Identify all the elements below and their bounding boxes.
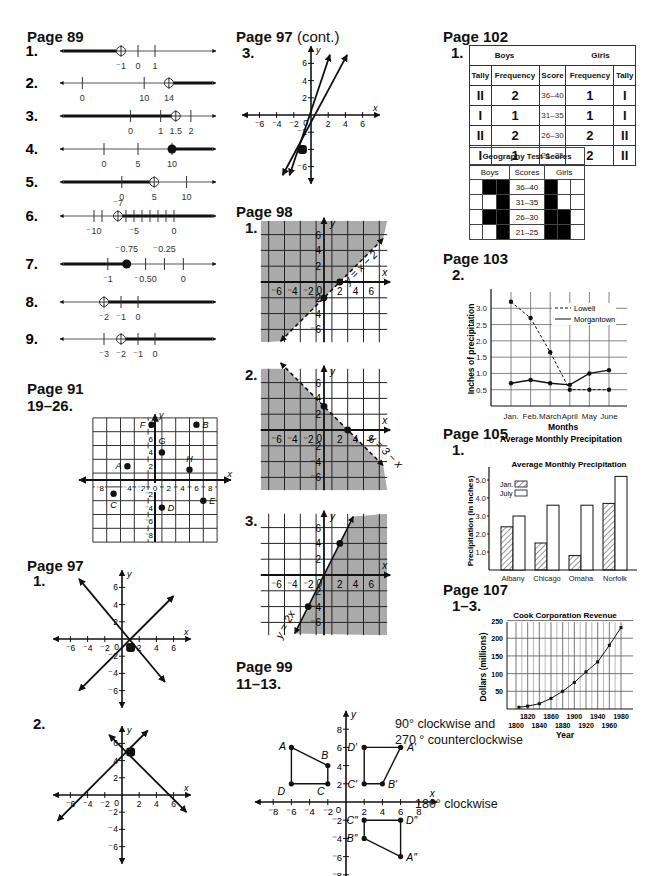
svg-text:C″: C″ [347, 814, 360, 826]
precipitation-line-chart: Jan.Feb.MarchAprilMayJune0.51.01.52.02.5… [440, 262, 666, 432]
svg-text:10: 10 [139, 93, 149, 103]
svg-text:2: 2 [149, 462, 154, 471]
svg-text:6: 6 [315, 378, 321, 389]
svg-text:1940: 1940 [590, 713, 606, 720]
svg-text:6: 6 [360, 119, 365, 129]
boys-header: Boys [470, 46, 540, 66]
svg-text:y: y [329, 366, 336, 377]
svg-text:⁻0.75: ⁻0.75 [115, 244, 138, 254]
tally-cell: I [470, 106, 492, 126]
svg-text:⁻4: ⁻4 [287, 286, 298, 297]
svg-text:⁻8: ⁻8 [96, 484, 105, 493]
svg-text:y: y [158, 410, 164, 420]
svg-text:⁻6: ⁻6 [66, 643, 76, 653]
precipitation-bar-chart: Average Monthly Precipitation1.02.03.04.… [440, 440, 666, 590]
geo-row: 26–30 [470, 210, 585, 225]
svg-text:6: 6 [302, 58, 307, 68]
svg-text:⁻0.50: ⁻0.50 [134, 274, 157, 284]
svg-text:H: H [186, 454, 193, 464]
svg-text:x: x [183, 783, 189, 793]
boys-cell [496, 210, 509, 225]
tally-cell: I [614, 106, 636, 126]
svg-text:Jan.: Jan. [500, 481, 513, 488]
table-row: II236–401I [470, 86, 636, 106]
svg-text:7.: 7. [25, 255, 38, 272]
svg-text:2: 2 [337, 434, 343, 445]
girls-cell [558, 180, 571, 195]
tally-cell: II [470, 86, 492, 106]
svg-text:1820: 1820 [520, 713, 536, 720]
frequency-cell: 2 [491, 86, 539, 106]
svg-text:4.: 4. [25, 140, 38, 157]
svg-text:⁻2: ⁻2 [145, 490, 154, 499]
score-cell: 26–30 [539, 126, 566, 146]
svg-text:⁻6: ⁻6 [310, 472, 321, 483]
svg-text:0: 0 [80, 93, 85, 103]
svg-text:1: 1 [152, 61, 157, 71]
svg-text:D: D [168, 503, 175, 513]
svg-text:Feb.: Feb. [523, 412, 539, 421]
svg-text:4: 4 [154, 643, 159, 653]
svg-text:1.: 1. [25, 42, 38, 59]
svg-text:6: 6 [369, 286, 375, 297]
tally-cell: II [614, 146, 636, 166]
svg-text:Months: Months [548, 422, 578, 432]
inequality-graph-page-98-3: yx⁻6⁻6⁻4⁻4⁻2⁻22244660y = 2x [262, 515, 442, 655]
girls-cell [558, 195, 571, 210]
svg-text:⁻6: ⁻6 [255, 119, 265, 129]
geo-row: 31–35 [470, 195, 585, 210]
svg-text:C: C [110, 500, 117, 510]
svg-text:4: 4 [113, 600, 118, 610]
svg-text:5: 5 [135, 159, 140, 169]
svg-text:0: 0 [336, 804, 341, 815]
svg-text:1880: 1880 [555, 722, 571, 729]
svg-text:F: F [140, 420, 146, 430]
svg-text:Cook Corporation Revenue: Cook Corporation Revenue [513, 611, 617, 620]
svg-text:⁻2: ⁻2 [116, 349, 126, 359]
girls-cell [544, 180, 557, 195]
svg-text:4: 4 [302, 76, 307, 86]
svg-text:⁻1: ⁻1 [116, 312, 126, 322]
geo-boys-header: Boys [470, 165, 510, 180]
boys-cell [483, 180, 496, 195]
page-98-problem-2: 2. [245, 366, 258, 383]
svg-text:x: x [372, 103, 378, 113]
svg-text:6: 6 [194, 484, 199, 493]
number-lines-page-89: 1.⁻1012.010143.011.524.05105.05106.⁻10⁻5… [0, 0, 230, 360]
svg-text:14: 14 [164, 93, 174, 103]
girls-cell [571, 180, 585, 195]
svg-text:Jan.: Jan. [503, 412, 518, 421]
svg-text:Precipitation (in inches): Precipitation (in inches) [466, 475, 475, 566]
svg-text:0: 0 [316, 433, 322, 444]
svg-text:⁻6: ⁻6 [271, 579, 282, 590]
svg-text:6: 6 [315, 523, 321, 534]
page-102-heading: Page 102 [443, 28, 508, 45]
svg-text:⁻6: ⁻6 [310, 324, 321, 335]
svg-text:March: March [539, 412, 561, 421]
svg-text:y: y [350, 709, 357, 720]
svg-text:2: 2 [337, 779, 342, 790]
svg-text:4: 4 [315, 538, 321, 549]
graph-page-97-3: yx⁻6⁻6⁻4⁻4⁻2⁻22244660 [258, 45, 408, 185]
score-cell: 36–40 [539, 86, 566, 106]
svg-text:0: 0 [128, 126, 133, 136]
svg-text:⁻6: ⁻6 [108, 842, 118, 852]
page-98-problem-1: 1. [245, 219, 258, 236]
svg-text:⁻0.25: ⁻0.25 [153, 244, 176, 254]
svg-text:Average Monthly Precipitation: Average Monthly Precipitation [512, 460, 627, 469]
svg-text:Dollars (millions): Dollars (millions) [478, 632, 488, 701]
svg-text:⁻2: ⁻2 [108, 807, 118, 817]
page-102-problem-1: 1. [451, 44, 464, 61]
svg-text:2: 2 [337, 286, 343, 297]
svg-text:D′: D′ [347, 741, 358, 753]
score-range: 36–40 [510, 180, 544, 195]
svg-text:⁻4: ⁻4 [83, 799, 93, 809]
svg-text:B: B [321, 749, 328, 761]
page-91-heading: Page 91 [27, 380, 84, 397]
svg-text:y: y [329, 511, 336, 522]
svg-text:150: 150 [491, 653, 503, 660]
svg-text:50: 50 [495, 688, 503, 695]
svg-text:July: July [500, 490, 513, 498]
boys-cell [470, 210, 483, 225]
svg-text:5.: 5. [25, 173, 38, 190]
